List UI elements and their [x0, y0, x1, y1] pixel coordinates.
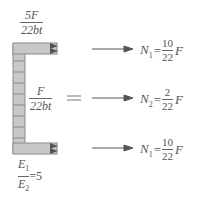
force-variable: F: [175, 142, 183, 158]
modulus-ratio-value: =5: [29, 169, 42, 184]
force-denominator: 22: [162, 101, 173, 112]
modulus-ratio: E1 E2 =5: [18, 158, 42, 196]
force-arrow-middle-head: [124, 95, 133, 101]
force-label-top: N1 = 10 22 F: [140, 38, 183, 63]
equals: =: [154, 142, 161, 158]
middle-stress-numerator: F: [36, 85, 45, 97]
force-label-bottom: N1 = 10 22 F: [140, 137, 183, 162]
equals-sign-icon: [67, 96, 81, 100]
force-symbol: N2: [140, 91, 153, 109]
force-fraction: 10 22: [162, 137, 173, 162]
force-numerator: 10: [162, 137, 173, 148]
force-variable: F: [175, 43, 183, 59]
modulus-ratio-numerator: E1: [18, 158, 29, 175]
middle-stress-label: F 22bt: [29, 85, 52, 112]
top-stress-denominator: 22bt: [20, 24, 43, 36]
force-arrow-bottom-head: [124, 145, 133, 151]
force-numerator: 2: [165, 87, 171, 98]
force-label-middle: N2 = 2 22 F: [140, 87, 183, 112]
equals: =: [154, 92, 161, 108]
force-variable: F: [175, 92, 183, 108]
force-fraction: 2 22: [162, 87, 173, 112]
equals: =: [154, 43, 161, 59]
top-stress-label: 5F 22bt: [20, 9, 43, 36]
force-fraction: 10 22: [162, 38, 173, 63]
middle-stress-denominator: 22bt: [29, 100, 52, 112]
force-numerator: 10: [162, 38, 173, 49]
force-denominator: 22: [162, 151, 173, 162]
top-stress-numerator: 5F: [24, 9, 39, 21]
force-symbol: N1: [140, 141, 153, 159]
modulus-ratio-denominator: E2: [18, 178, 29, 195]
force-arrow-top-head: [124, 46, 133, 52]
force-symbol: N1: [140, 42, 153, 60]
force-denominator: 22: [162, 52, 173, 63]
